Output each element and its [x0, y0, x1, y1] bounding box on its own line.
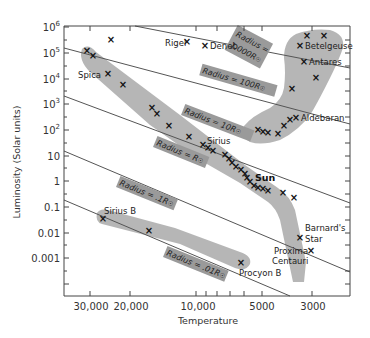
star-marker: ×	[292, 112, 300, 123]
hr-diagram: Radius = 1,000R☉ Radius = 100R☉ Radius =…	[0, 0, 370, 338]
svg-text:Radius = .1R☉: Radius = .1R☉	[118, 179, 175, 209]
y-tick-labels: 106 105 104 103 102 10 1 0.1 0.01 0.001	[31, 20, 60, 264]
label-spica: Spica	[78, 70, 101, 80]
star-marker: ×	[320, 30, 328, 41]
label-proxima-1: Proxima	[274, 246, 308, 256]
y-axis-title: Luminosity (Solar units)	[11, 106, 22, 219]
label-barnards-2: Star	[305, 234, 323, 244]
star-marker: ×	[107, 34, 115, 45]
star-marker: ×	[312, 72, 320, 83]
star-marker: ×	[264, 185, 272, 196]
x-tick-labels: 30,000 20,000 10,000 5000 3000	[74, 301, 326, 312]
radius-label-100: Radius = 100R☉	[199, 64, 277, 97]
svg-text:5000: 5000	[249, 301, 274, 312]
svg-text:105: 105	[43, 46, 60, 59]
star-marker: ×	[290, 192, 298, 203]
label-antares: Antares	[309, 57, 342, 67]
star-marker: ×	[119, 79, 127, 90]
label-procyon-b: Procyon B	[239, 268, 281, 278]
label-rigel: Rigel	[165, 38, 186, 48]
star-marker: ×	[185, 131, 193, 142]
star-marker: ×	[89, 50, 97, 61]
svg-text:102: 102	[43, 123, 60, 136]
star-marker: ×	[145, 225, 153, 236]
label-sun: Sun	[255, 172, 276, 183]
star-marker: ×	[165, 120, 173, 131]
star-marker: ×	[300, 56, 308, 67]
svg-text:10,000: 10,000	[181, 301, 216, 312]
star-marker: ×	[104, 68, 112, 79]
label-betelgeuse: Betelgeuse	[305, 41, 353, 51]
label-proxima-2: Centauri	[272, 256, 308, 266]
star-marker: ×	[288, 83, 296, 94]
label-deneb: Deneb	[210, 41, 238, 51]
star-marker: ×	[279, 187, 287, 198]
svg-text:0.1: 0.1	[44, 202, 60, 213]
star-marker: ×	[201, 40, 209, 51]
svg-text:0.01: 0.01	[38, 228, 60, 239]
star-marker: ×	[153, 108, 161, 119]
star-marker: ×	[264, 127, 272, 138]
svg-text:1: 1	[54, 176, 60, 187]
label-barnards-1: Barnard's	[305, 223, 346, 233]
label-sirius: Sirius	[207, 136, 231, 146]
svg-text:10: 10	[47, 151, 60, 162]
svg-text:3000: 3000	[300, 301, 325, 312]
svg-text:0.001: 0.001	[31, 253, 60, 264]
star-marker: ×	[296, 232, 304, 243]
x-axis-title: Temperature	[177, 315, 238, 326]
svg-text:104: 104	[43, 72, 61, 85]
svg-text:30,000: 30,000	[74, 301, 109, 312]
star-marker: ×	[237, 257, 245, 268]
svg-text:103: 103	[43, 97, 60, 110]
star-marker: ×	[209, 145, 217, 156]
label-sirius-b: Sirius B	[104, 206, 136, 216]
svg-text:20,000: 20,000	[114, 301, 149, 312]
star-marker: ×	[296, 40, 304, 51]
svg-text:106: 106	[43, 20, 61, 33]
label-aldebaran: Aldebaran	[301, 113, 345, 123]
